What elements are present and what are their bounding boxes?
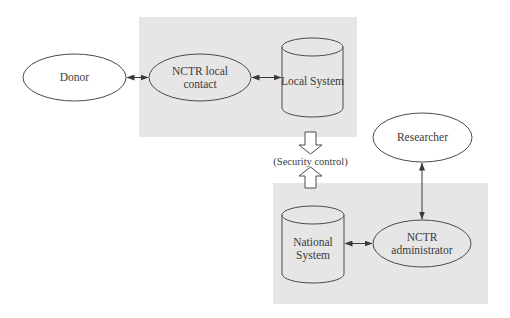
security-up-arrow-icon — [299, 167, 322, 188]
local-system-label: Local System — [280, 75, 345, 88]
researcher-label: Researcher — [373, 131, 472, 144]
local-contact-label: NCTR local contact — [149, 65, 251, 91]
national-system-line1: National — [282, 236, 344, 249]
local-contact-line2: contact — [149, 78, 251, 91]
administrator-line2: administrator — [373, 244, 471, 257]
security-down-arrow-icon — [299, 132, 322, 154]
local-contact-line1: NCTR local — [149, 65, 251, 78]
administrator-line1: NCTR — [373, 231, 471, 244]
national-system-label: National System — [282, 236, 344, 262]
national-system-line2: System — [282, 249, 344, 262]
administrator-label: NCTR administrator — [373, 231, 471, 257]
donor-label: Donor — [23, 71, 126, 84]
security-control-label: (Security control) — [260, 155, 361, 168]
diagram-canvas — [0, 0, 510, 318]
